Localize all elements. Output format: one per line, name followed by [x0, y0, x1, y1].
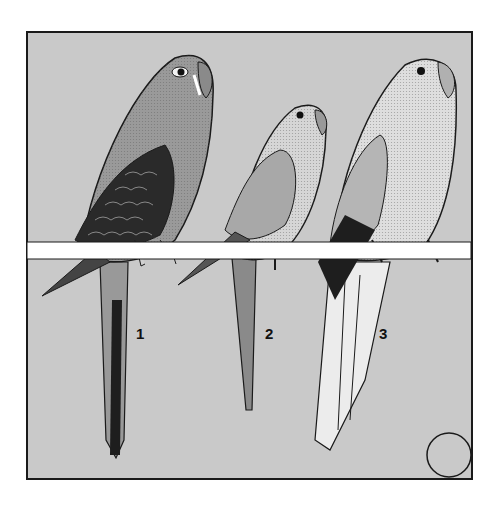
bird-3-tail — [315, 262, 390, 450]
perch-bar — [27, 242, 471, 259]
bird-label-3: 3 — [379, 325, 387, 342]
bird-label-1: 1 — [136, 325, 144, 342]
bird-label-2: 2 — [265, 325, 273, 342]
bird-1 — [42, 56, 213, 296]
empty-circle-marker — [427, 433, 471, 477]
parrots-illustration — [0, 0, 498, 513]
bird-1-tail — [100, 262, 128, 458]
bird-2-tail — [232, 258, 256, 410]
